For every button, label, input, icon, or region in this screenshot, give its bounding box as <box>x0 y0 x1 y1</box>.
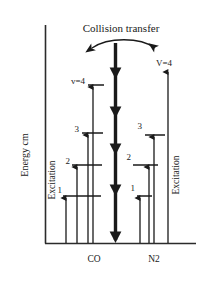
cascade-head-3 <box>110 144 122 156</box>
n2-level-label-4: V=4 <box>156 58 173 68</box>
cascade-head-2 <box>110 107 122 119</box>
co-level-label-2: 2 <box>66 156 71 166</box>
n2-excitation-label: Excitation <box>171 155 181 194</box>
axes-group <box>45 25 196 244</box>
co-level-label-1: 1 <box>58 185 63 195</box>
energy-level-diagram: Energy cm Collision transfer v=4 3 2 1 E… <box>0 0 203 281</box>
collision-transfer-arrow <box>92 40 155 48</box>
cascade-head-1 <box>110 68 122 80</box>
co-level-label-3: 3 <box>75 124 80 134</box>
n2-level-label-1: 1 <box>131 183 136 193</box>
co-level-lines <box>63 85 104 196</box>
y-axis-label: Energy cm <box>19 133 30 177</box>
n2-level-label-3: 3 <box>138 121 143 131</box>
n2-excitation-arrows <box>140 72 168 243</box>
molecule-label-n2: N2 <box>148 254 160 264</box>
figure-container: Energy cm Collision transfer v=4 3 2 1 E… <box>0 0 203 281</box>
relaxation-cascade-arrow <box>110 43 122 243</box>
co-level-label-4: v=4 <box>71 76 86 86</box>
molecule-label-co: CO <box>87 254 100 264</box>
n2-level-label-2: 2 <box>127 152 132 162</box>
cascade-head-5 <box>110 232 122 244</box>
co-excitation-label: Excitation <box>47 160 57 199</box>
cascade-head-4 <box>110 185 122 197</box>
diagram-title: Collision transfer <box>83 22 160 34</box>
